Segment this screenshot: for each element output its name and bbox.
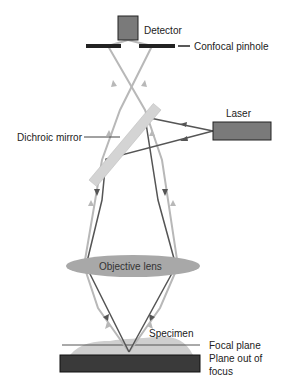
laser-label: Laser: [226, 108, 252, 119]
dichroic-label: Dichroic mirror: [17, 132, 83, 143]
out-of-focus-label-2: focus: [209, 366, 233, 377]
focal-plane-label: Focal plane: [209, 340, 261, 351]
emission-rays: [84, 40, 178, 352]
detector-label: Detector: [144, 25, 182, 36]
out-of-focus-label-1: Plane out of: [209, 353, 263, 364]
excitation-arrows: [94, 122, 188, 321]
objective-label: Objective lens: [99, 261, 162, 272]
confocal-diagram: Detector Confocal pinhole Laser Dichroic…: [0, 0, 284, 390]
pinhole-label: Confocal pinhole: [194, 41, 269, 52]
slide: [60, 355, 200, 372]
pinhole-right: [139, 44, 175, 48]
laser-box: [213, 122, 271, 140]
detector-box: [118, 16, 138, 40]
specimen-shape: [70, 336, 193, 355]
dichroic-mirror: [89, 103, 161, 186]
specimen-label: Specimen: [149, 328, 193, 339]
pinhole-left: [86, 44, 121, 48]
